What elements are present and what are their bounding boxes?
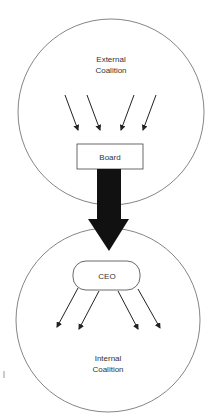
ceo-label: CEO: [98, 272, 115, 281]
internal-coalition-label: Internal: [95, 354, 122, 363]
internal-coalition-label-2: Coalition: [92, 365, 123, 374]
external-coalition-label: External: [96, 55, 126, 64]
external-coalition-label-2: Coalition: [95, 66, 126, 75]
board-to-ceo-arrow: [88, 169, 129, 251]
internal-coalition-circle: [16, 228, 200, 412]
internal-influence-arrows: [57, 288, 160, 329]
external-influence-arrows: [65, 95, 156, 130]
power-diagram: External Coalition Board CEO Internal Co…: [0, 0, 215, 420]
board-label: Board: [99, 153, 120, 162]
